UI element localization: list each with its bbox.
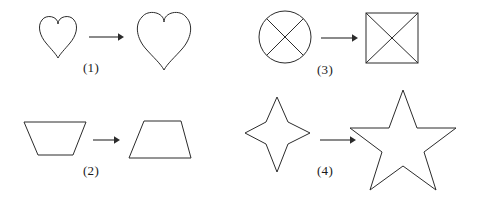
trapezoid-wide-bottom-shape — [129, 121, 191, 158]
figure-canvas — [0, 0, 477, 206]
panel-2-group — [24, 121, 191, 158]
star-4-point-shape — [245, 97, 310, 172]
heart-small-shape — [39, 17, 76, 58]
panel-4-label: (4) — [313, 163, 337, 179]
panel-3-arrow-head — [352, 34, 358, 42]
panel-1-arrow-head — [118, 33, 124, 41]
panel-2-label: (2) — [79, 163, 103, 179]
panel-4-group — [245, 90, 456, 190]
star-5-point-shape — [350, 90, 456, 190]
panel-2-arrow-head — [114, 136, 120, 144]
panel-1-group — [39, 12, 190, 70]
panel-1-label: (1) — [79, 60, 103, 76]
panel-3-group — [259, 11, 418, 63]
panel-4-arrow-head — [350, 136, 356, 144]
shape-transformation-figure: (1) (2) (3) (4) — [0, 0, 477, 206]
heart-large-shape — [137, 12, 190, 70]
panel-3-label: (3) — [313, 62, 337, 78]
trapezoid-wide-top-shape — [24, 122, 86, 155]
